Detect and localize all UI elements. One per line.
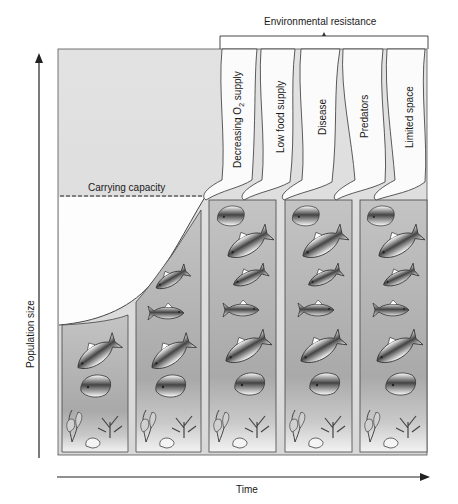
population-growth-diagram xyxy=(0,0,458,504)
panel-5 xyxy=(360,200,427,452)
y-axis-label: Population size xyxy=(25,300,36,368)
bracket-pointer-icon xyxy=(322,32,326,36)
panel-1 xyxy=(62,315,128,452)
x-axis-arrow-icon xyxy=(420,473,430,481)
environmental-resistance-label: Environmental resistance xyxy=(264,16,376,27)
x-axis-label: Time xyxy=(236,484,258,495)
factor-disease: Disease xyxy=(317,99,328,135)
factor-predators: Predators xyxy=(359,95,370,138)
environmental-resistance-bracket xyxy=(220,36,428,49)
factor-low-food-supply: Low food supply xyxy=(275,81,286,153)
panel-4 xyxy=(285,200,352,452)
carrying-capacity-label: Carrying capacity xyxy=(88,182,165,193)
y-axis-arrow-icon xyxy=(35,53,43,63)
factor-label: Decreasing O xyxy=(232,107,243,168)
factor-limited-space: Limited space xyxy=(404,86,415,148)
factor-suffix: supply xyxy=(232,71,243,103)
factor-decreasing-o2: Decreasing O2 supply xyxy=(232,71,245,168)
factor-subscript: 2 xyxy=(238,103,245,107)
panel-3 xyxy=(209,200,276,452)
